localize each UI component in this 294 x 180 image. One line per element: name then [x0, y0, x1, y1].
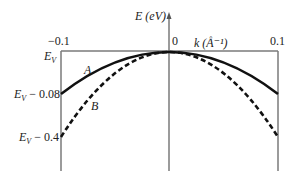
y-axis-label: E (eV) [134, 9, 166, 23]
arrow-up-icon [167, 12, 172, 19]
curve-a-label: A [83, 63, 92, 77]
x-tick-pos: 0.1 [270, 34, 285, 48]
band-diagram: E (eV) k (Å⁻¹) −0.1 0 0.1 EV EV − 0.08 E… [0, 0, 294, 180]
x-tick-neg: −0.1 [48, 34, 70, 48]
x-axis-label: k (Å⁻¹) [194, 36, 228, 50]
curve-b-label: B [91, 99, 99, 113]
y-tick-ev-0-4: EV − 0.4 [18, 130, 59, 146]
y-tick-ev-0-08: EV − 0.08 [13, 87, 60, 103]
y-tick-ev: EV [43, 49, 57, 65]
x-tick-zero: 0 [172, 34, 178, 48]
